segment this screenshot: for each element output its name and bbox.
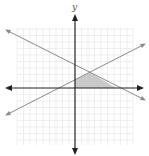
arrowhead-icon	[72, 148, 78, 155]
coordinate-plane	[0, 0, 149, 156]
arrowhead-icon	[5, 111, 11, 116]
y-axis-label: y	[72, 2, 77, 12]
arrowhead-icon	[137, 85, 144, 91]
arrowhead-icon	[5, 30, 11, 35]
arrowhead-icon	[5, 85, 12, 91]
arrowhead-icon	[140, 44, 146, 49]
arrowhead-icon	[140, 96, 146, 101]
arrowhead-icon	[72, 14, 78, 21]
